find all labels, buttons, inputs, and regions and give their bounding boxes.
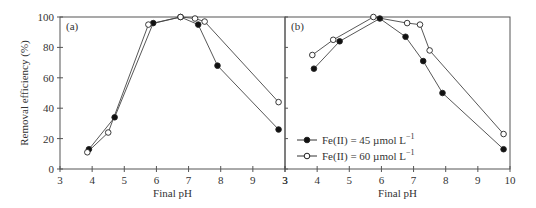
series-line <box>87 17 278 152</box>
panel-a: 02040608010034567893Final pH(a) <box>38 11 289 199</box>
data-point <box>146 22 152 28</box>
open-circle-icon <box>304 153 310 159</box>
data-point <box>440 90 446 96</box>
x-tick-label: 6 <box>154 174 160 186</box>
data-point <box>330 37 336 43</box>
data-point <box>276 99 282 105</box>
data-point <box>85 149 91 155</box>
filled-circle-icon <box>304 137 310 143</box>
figure: 02040608010034567893Final pH(a) 34567891… <box>0 0 536 208</box>
x-tick-label: 9 <box>475 174 481 186</box>
plot-frame <box>285 17 510 169</box>
data-point <box>403 34 409 40</box>
y-tick-label: 100 <box>38 11 55 23</box>
x-tick-label: 3 <box>57 174 63 186</box>
data-point <box>215 63 221 69</box>
x-axis-label: Final pH <box>153 187 192 199</box>
data-point <box>501 131 507 137</box>
data-point <box>276 127 282 133</box>
x-tick-label: 8 <box>443 174 449 186</box>
series-line <box>312 17 503 134</box>
y-tick-label: 0 <box>49 163 55 175</box>
data-point <box>192 16 198 22</box>
x-tick-label: 6 <box>379 174 385 186</box>
data-point <box>178 14 184 20</box>
legend: Fe(II) = 45 µmol L−1Fe(II) = 60 µmol L−1 <box>297 132 415 163</box>
x-tick-label: 7 <box>411 174 417 186</box>
x-tick-label: 5 <box>122 174 128 186</box>
x-tick-label: 10 <box>505 174 517 186</box>
data-point <box>310 52 316 58</box>
x-tick-label: 7 <box>186 174 192 186</box>
y-tick-label: 60 <box>43 72 55 84</box>
panel-label: (a) <box>66 20 79 33</box>
data-point <box>404 20 410 26</box>
x-tick-label: 4 <box>89 174 95 186</box>
y-tick-label: 40 <box>43 102 55 114</box>
panel-label: (b) <box>291 20 304 33</box>
legend-label: Fe(II) = 45 µmol L−1 <box>322 132 415 147</box>
x-tick-label: 5 <box>347 174 353 186</box>
data-point <box>311 66 317 72</box>
data-point <box>105 130 111 136</box>
y-tick-label: 80 <box>43 41 55 53</box>
data-point <box>337 39 343 45</box>
data-point <box>112 115 118 121</box>
y-axis-label: Removal efficiency (%) <box>18 40 31 146</box>
data-point <box>377 16 383 22</box>
data-point <box>420 58 426 64</box>
data-point <box>417 22 423 28</box>
legend-label: Fe(II) = 60 µmol L−1 <box>322 148 415 163</box>
data-point <box>371 14 377 20</box>
data-point <box>195 22 201 28</box>
series-line <box>89 17 279 149</box>
x-tick-label: 4 <box>314 174 320 186</box>
y-tick-label: 20 <box>43 133 55 145</box>
panel-b: 345678910Final pH(b) <box>282 14 516 199</box>
x-tick-label: 9 <box>250 174 256 186</box>
series-line <box>314 19 504 150</box>
x-axis-label: Final pH <box>378 187 417 199</box>
data-point <box>501 146 507 152</box>
data-point <box>202 19 208 25</box>
data-point <box>427 48 433 54</box>
x-tick-label: 3 <box>282 174 288 186</box>
x-tick-label: 8 <box>218 174 224 186</box>
